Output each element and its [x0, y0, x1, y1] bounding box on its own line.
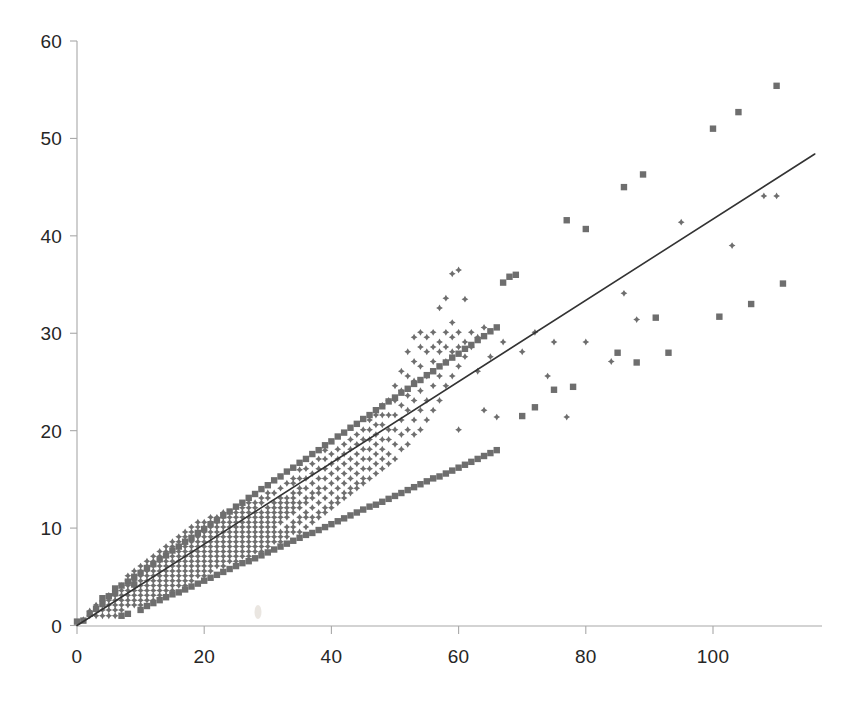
data-point: [290, 519, 297, 526]
data-point: [417, 329, 424, 336]
data-point: [398, 402, 405, 409]
x-tick-label-100: 100: [697, 647, 729, 666]
data-point: [283, 480, 290, 487]
data-point: [532, 404, 538, 410]
data-point: [334, 485, 341, 492]
data-point: [455, 464, 461, 470]
data-point: [341, 460, 348, 467]
data-point: [551, 339, 558, 346]
data-point: [411, 484, 417, 490]
data-point: [462, 353, 469, 360]
data-point: [430, 368, 436, 374]
data-point: [366, 446, 373, 453]
data-point: [309, 530, 315, 536]
data-point: [347, 485, 354, 492]
data-point: [398, 431, 405, 438]
data-point: [328, 470, 335, 477]
data-point: [169, 538, 176, 545]
data-point: [379, 412, 386, 419]
data-point: [449, 354, 455, 360]
data-point: [621, 184, 627, 190]
data-point: [360, 506, 366, 512]
data-point: [373, 502, 379, 508]
data-point: [449, 348, 456, 355]
data-point: [436, 305, 443, 312]
data-point: [328, 490, 335, 497]
data-point: [283, 494, 290, 501]
data-point: [303, 456, 309, 462]
data-point: [773, 83, 779, 89]
y-tick-label-20: 20: [8, 421, 62, 440]
data-point: [328, 521, 334, 527]
data-point: [678, 219, 685, 226]
data-point: [309, 460, 316, 467]
data-point: [424, 478, 430, 484]
data-point: [150, 553, 157, 560]
data-point: [442, 329, 449, 336]
data-point: [182, 529, 189, 536]
data-point: [398, 368, 405, 375]
data-point: [404, 348, 411, 355]
data-point: [303, 524, 310, 531]
data-point: [379, 421, 386, 428]
data-point: [322, 475, 329, 482]
data-point: [296, 514, 303, 521]
data-point: [392, 426, 399, 433]
data-point: [430, 343, 437, 350]
data-point: [436, 473, 442, 479]
data-point: [131, 568, 138, 575]
data-point: [442, 295, 449, 302]
data-point: [303, 465, 310, 472]
data-point: [315, 475, 322, 482]
data-point: [347, 436, 354, 443]
data-point: [385, 436, 392, 443]
data-point: [563, 414, 570, 421]
data-point: [315, 485, 322, 492]
data-point: [455, 351, 461, 357]
data-point: [436, 363, 442, 369]
data-point: [436, 348, 443, 355]
data-point: [748, 301, 754, 307]
data-point: [303, 494, 310, 501]
data-point: [417, 377, 423, 383]
data-point: [201, 519, 208, 526]
data-point: [360, 446, 367, 453]
data-point: [430, 382, 437, 389]
x-tick-label-80: 80: [575, 647, 597, 666]
data-point: [341, 515, 347, 521]
data-point: [773, 192, 780, 199]
data-point: [258, 494, 265, 501]
data-point: [392, 456, 399, 463]
data-point: [334, 446, 341, 453]
data-point: [105, 612, 112, 619]
data-point: [347, 512, 353, 518]
data-point: [392, 493, 398, 499]
data-point: [290, 475, 297, 482]
data-point: [303, 532, 309, 538]
data-point: [481, 407, 488, 414]
data-point: [411, 397, 418, 404]
data-point: [481, 324, 488, 331]
data-point: [353, 460, 360, 467]
x-tick-label-60: 60: [448, 647, 470, 666]
data-point: [519, 413, 525, 419]
data-point: [258, 509, 265, 516]
data-point: [449, 373, 456, 380]
data-point: [220, 569, 226, 575]
data-point: [430, 358, 437, 365]
data-point: [373, 460, 380, 467]
data-point: [373, 470, 380, 477]
data-point: [608, 358, 615, 365]
y-tick-label-40: 40: [8, 226, 62, 245]
data-point: [354, 421, 360, 427]
data-point: [303, 509, 310, 516]
data-point: [366, 465, 373, 472]
data-point: [328, 451, 335, 458]
data-point: [207, 575, 213, 581]
data-point: [277, 473, 283, 479]
data-point: [487, 450, 493, 456]
data-point: [481, 453, 487, 459]
data-point: [373, 451, 380, 458]
data-point: [544, 373, 551, 380]
data-point: [176, 589, 182, 595]
